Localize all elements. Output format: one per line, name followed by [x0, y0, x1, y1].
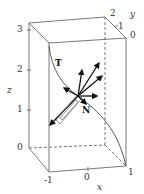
y-tick-0: 0	[130, 31, 136, 40]
tnb-frame-vectors	[50, 63, 102, 125]
x-tick-0: 0	[84, 173, 90, 182]
y-tick-2: 2	[110, 9, 116, 18]
x-axis-label: x	[97, 183, 102, 192]
z-tick-1: 1	[17, 105, 23, 114]
tangent-label: T	[55, 59, 62, 68]
x-tick-neg1: -1	[44, 176, 53, 185]
z-axis-label: z	[7, 86, 12, 95]
y-axis-label: y	[130, 10, 135, 19]
x-tick-1: 1	[128, 168, 134, 177]
z-tick-0: 0	[17, 143, 23, 152]
z-tick-2: 2	[17, 65, 23, 74]
y-tick-1: 1	[118, 22, 124, 31]
normal-label: N	[82, 106, 90, 115]
z-tick-3: 3	[17, 25, 23, 34]
binormal-ribbon	[56, 94, 82, 124]
